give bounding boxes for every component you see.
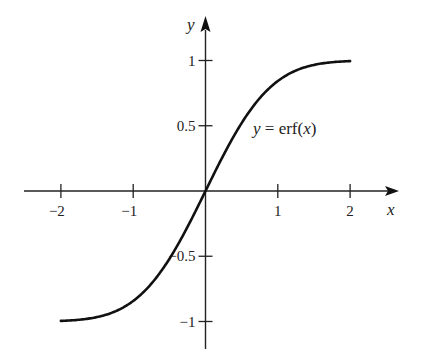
y-axis-arrow-icon xyxy=(201,16,211,32)
x-tick-label: 1 xyxy=(274,203,282,219)
x-axis-label: x xyxy=(386,200,395,219)
x-tick-label: −2 xyxy=(49,203,65,219)
x-tick-label: −1 xyxy=(121,203,137,219)
x-axis: −2−112 x xyxy=(24,184,399,219)
x-tick-label: 2 xyxy=(346,203,354,219)
curve-annotation: y = erf(x) xyxy=(251,119,316,138)
erf-chart: −2−112 x 10.5−0.5−1 y y = erf(x) xyxy=(0,0,424,362)
y-axis: 10.5−0.5−1 y xyxy=(168,15,212,349)
y-tick-label: 1 xyxy=(188,53,196,69)
y-tick-label: −1 xyxy=(180,314,196,330)
y-tick-label: 0.5 xyxy=(177,118,196,134)
y-axis-label: y xyxy=(185,15,195,34)
